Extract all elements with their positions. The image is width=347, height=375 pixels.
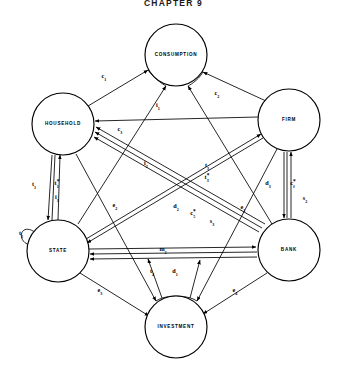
edge-label-t4: t4 <box>150 267 154 276</box>
edge-label-s2: s2 <box>303 194 307 203</box>
edge-label-d3: d3 <box>265 179 271 188</box>
node-investment[interactable]: INVESTMENT <box>145 296 207 358</box>
link-household-investment <box>76 154 156 301</box>
edge-label-t3star: t*3 <box>205 172 210 182</box>
link-bank-consumption <box>188 86 272 224</box>
edge-label-d2: d2 <box>173 202 179 211</box>
edge-label-t3: t3 <box>205 161 209 170</box>
edge-label-e3: e3 <box>98 286 103 295</box>
edge-label-t2: t2 <box>19 229 23 238</box>
edge-label-i3: i3 <box>55 193 59 202</box>
edge-label-c3: c3 <box>118 125 123 134</box>
node-household-label: HOUSEHOLD <box>45 121 81 126</box>
node-state-label: STATE <box>49 248 67 253</box>
edge-label-d1: d1 <box>172 267 178 276</box>
edge-label-i2: i2 <box>144 159 148 168</box>
link-state-investment <box>80 273 149 316</box>
edge-label-i1: i1 <box>156 101 160 110</box>
link-bank-state-b <box>90 252 257 254</box>
node-household[interactable]: HOUSEHOLD <box>32 93 94 155</box>
link-state-firm-in <box>86 134 261 239</box>
link-household-state-out <box>48 155 52 220</box>
edge-label-t1: t1 <box>32 180 36 189</box>
node-consumption-label: CONSUMPTION <box>155 52 198 57</box>
node-consumption[interactable]: CONSUMPTION <box>145 24 207 86</box>
node-state[interactable]: STATE <box>27 220 89 282</box>
edge-label-s3: s3 <box>210 217 214 226</box>
node-firm-label: FIRM <box>282 117 296 122</box>
link-firm-consumption <box>203 72 266 101</box>
link-bank-household-b <box>95 132 262 228</box>
edge-label-c1: c1 <box>102 72 107 81</box>
node-bank[interactable]: BANK <box>258 219 320 281</box>
link-household-state-extra <box>52 155 55 220</box>
link-firm-household <box>95 117 258 121</box>
edge-label-e2: e2 <box>113 201 118 210</box>
economic-flow-diagram: CONSUMPTION HOUSEHOLD FIRM STATE BANK IN… <box>0 0 347 375</box>
edge-label-e1: e1 <box>241 203 246 212</box>
edge-label-c5: c*5 <box>190 208 196 218</box>
edge-label-c2: c2 <box>215 89 220 98</box>
link-firm-state-out <box>87 138 263 243</box>
node-investment-label: INVESTMENT <box>157 324 194 329</box>
node-bank-label: BANK <box>281 247 297 252</box>
link-bank-state-c <box>90 257 257 259</box>
node-firm[interactable]: FIRM <box>258 89 320 151</box>
link-investment-bank <box>190 260 200 298</box>
link-household-consumption <box>88 70 148 106</box>
link-investment-state <box>148 259 162 298</box>
link-state-bank-a <box>89 247 256 249</box>
